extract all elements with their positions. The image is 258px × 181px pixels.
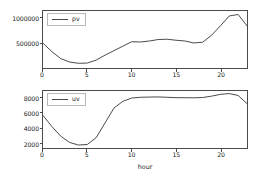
x-tick-mark <box>131 149 132 152</box>
x-tick-mark <box>176 149 177 152</box>
x-tick-label: 15 <box>172 71 180 78</box>
uv-legend-label: uv <box>72 96 80 102</box>
y-tick-label: 8000 <box>24 94 39 101</box>
x-tick-mark <box>176 69 177 72</box>
y-tick-mark <box>40 17 43 18</box>
x-tick-label: 0 <box>40 151 44 158</box>
x-tick-mark <box>42 69 43 72</box>
uv-panel: 2000400060008000 05101520 uv hour <box>0 85 258 181</box>
x-axis-label: hour <box>138 163 153 171</box>
y-tick-label: 1000000 <box>12 14 39 21</box>
y-tick-mark <box>40 128 43 129</box>
y-tick-mark <box>40 97 43 98</box>
x-tick-mark <box>86 149 87 152</box>
pv-legend: pv <box>47 13 86 26</box>
x-tick-label: 20 <box>217 151 225 158</box>
y-tick-label: 6000 <box>24 109 39 116</box>
pv-legend-swatch <box>52 19 68 20</box>
y-tick-label: 4000 <box>24 125 39 132</box>
y-tick-label: 2000 <box>24 140 39 147</box>
x-tick-label: 10 <box>128 71 136 78</box>
uv-legend-swatch <box>52 99 68 100</box>
pv-panel: 5000001000000 05101520 pv <box>0 0 258 85</box>
y-tick-mark <box>40 112 43 113</box>
figure: 5000001000000 05101520 pv 20004000600080… <box>0 0 258 181</box>
uv-legend: uv <box>47 93 86 106</box>
x-tick-mark <box>131 69 132 72</box>
x-tick-mark <box>221 69 222 72</box>
y-tick-mark <box>40 143 43 144</box>
x-tick-mark <box>221 149 222 152</box>
x-tick-label: 5 <box>85 151 89 158</box>
x-tick-label: 0 <box>40 71 44 78</box>
pv-legend-label: pv <box>72 16 80 22</box>
x-tick-mark <box>42 149 43 152</box>
y-tick-mark <box>40 43 43 44</box>
x-tick-label: 15 <box>172 151 180 158</box>
x-tick-label: 5 <box>85 71 89 78</box>
y-tick-label: 500000 <box>16 40 39 47</box>
x-tick-mark <box>86 69 87 72</box>
x-tick-label: 20 <box>217 71 225 78</box>
x-tick-label: 10 <box>128 151 136 158</box>
